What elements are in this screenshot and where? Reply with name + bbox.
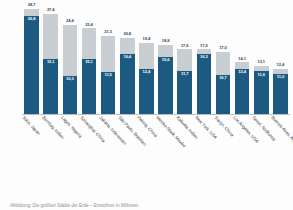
bar-value-future: 17,6: [200, 44, 208, 48]
bar-value-current: 10,3: [66, 77, 74, 81]
bar-value-current: 11,7: [181, 72, 188, 76]
bar-value-future: 17,0: [219, 46, 227, 50]
bar-current: [24, 16, 39, 114]
bar-group: 12,411,0: [273, 4, 288, 114]
bar-value-future: 28,7: [28, 3, 36, 7]
bar-value-future: 27,4: [47, 8, 55, 12]
bar-value-current: 10,7: [219, 76, 227, 80]
bar-value-current: 11,6: [258, 73, 265, 77]
bar-value-current: 11,5: [104, 73, 111, 77]
bar-group: 18,815,6: [158, 4, 173, 114]
bar-value-future: 13,1: [257, 60, 265, 64]
plot-area: 28,726,827,415,124,410,323,415,121,311,5…: [22, 4, 290, 114]
bar-value-future: 12,4: [277, 63, 285, 67]
bar-group: 19,412,4: [139, 4, 154, 114]
bar-current: [63, 76, 78, 114]
bar-group: 28,726,8: [24, 4, 39, 114]
bar-group: 27,415,1: [43, 4, 58, 114]
bar-value-current: 15,6: [162, 58, 170, 62]
bar-value-future: 17,6: [181, 44, 189, 48]
bar-group: 17,616,3: [197, 4, 212, 114]
bar-value-future: 20,8: [123, 32, 131, 36]
bar-group: 23,415,1: [82, 4, 97, 114]
bar-current: [120, 54, 135, 114]
bar-value-current: 15,1: [47, 60, 55, 64]
x-axis-labels: Tokio, JapanBombay, IndienLagos, Nigeria…: [22, 115, 290, 195]
bar-value-current: 11,0: [277, 75, 284, 79]
bar-value-future: 21,3: [104, 30, 112, 34]
bar-value-current: 12,4: [143, 70, 151, 74]
bar-group: 20,816,4: [120, 4, 135, 114]
bar-current: [43, 59, 58, 114]
bar-current: [216, 75, 231, 114]
bar-group: 17,010,7: [216, 4, 231, 114]
bar-value-future: 14,1: [238, 57, 246, 61]
bar-value-current: 16,4: [123, 55, 131, 59]
bar-group: 24,410,3: [63, 4, 78, 114]
bar-current: [139, 69, 154, 114]
bar-group: 13,111,6: [254, 4, 269, 114]
bar-value-current: 26,8: [28, 17, 36, 21]
bar-value-future: 18,8: [162, 39, 170, 43]
bar-current: [158, 57, 173, 114]
bar-value-future: 24,4: [66, 19, 74, 23]
chart-figure: 28,726,827,415,124,410,323,415,121,311,5…: [0, 0, 293, 210]
bar-current: [273, 74, 288, 114]
bar-current: [235, 69, 250, 114]
bar-group: 21,311,5: [101, 4, 116, 114]
bar-current: [177, 71, 192, 114]
x-axis-tick-label: Tokio, Japan: [22, 115, 42, 136]
bar-group: 17,611,7: [177, 4, 192, 114]
bar-value-future: 19,4: [143, 37, 151, 41]
chart-footnote: Abbildung: Die größten Städte der Erde –…: [10, 203, 285, 210]
bar-value-current: 15,1: [85, 60, 93, 64]
bar-current: [101, 72, 116, 114]
bar-value-current: 12,4: [238, 70, 246, 74]
bar-value-future: 23,4: [85, 23, 93, 27]
bar-group: 14,112,4: [235, 4, 250, 114]
bar-current: [197, 54, 212, 114]
bar-value-current: 16,3: [200, 55, 208, 59]
bar-current: [254, 71, 269, 114]
bar-current: [82, 59, 97, 114]
